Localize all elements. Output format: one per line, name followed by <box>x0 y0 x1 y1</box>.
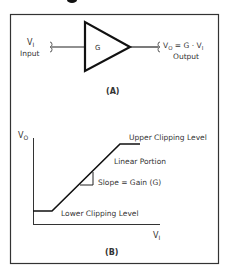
slope-triangle-icon <box>80 172 93 185</box>
input-brace-icon <box>50 42 52 52</box>
amplifier-figure: VI Input G VO = G · VI Output (A) VO Upp… <box>0 0 227 267</box>
input-var: VI <box>27 38 34 48</box>
slope-label: Slope = Gain (G) <box>98 178 161 187</box>
output-brace-icon <box>158 42 160 52</box>
output-label: Output <box>173 52 199 61</box>
linear-portion-label: Linear Portion <box>114 157 166 166</box>
output-equation: VO = G · VI <box>163 41 204 51</box>
part-a-label: (A) <box>106 87 120 96</box>
upper-clipping-label: Upper Clipping Level <box>129 133 207 142</box>
part-b-label: (B) <box>105 248 118 257</box>
x-axis-label: VI <box>153 231 160 241</box>
y-axis-label: VO <box>18 131 28 141</box>
part-b-transfer-graph: VO Upper Clipping Level Linear Portion S… <box>18 131 207 257</box>
part-a-block-diagram: VI Input G VO = G · VI Output (A) <box>20 22 204 96</box>
lower-clipping-label: Lower Clipping Level <box>61 209 139 218</box>
heading-fragment <box>67 0 77 3</box>
amplifier-gain-symbol: G <box>95 44 100 52</box>
amplifier-triangle-icon <box>85 22 130 71</box>
input-label: Input <box>20 49 39 58</box>
